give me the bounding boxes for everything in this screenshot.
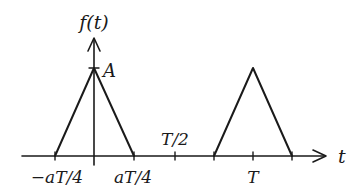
t-axis-label: t — [338, 145, 346, 167]
tick-label-T: T — [247, 167, 260, 187]
tick-label-neg-aT4: −aT/4 — [31, 167, 83, 187]
tick-label-half-T: T/2 — [161, 129, 189, 149]
tick-label-pos-aT4: aT/4 — [114, 167, 152, 187]
f-axis-label: f(t) — [77, 11, 109, 33]
peak-label: A — [101, 60, 116, 81]
pulse-at-T — [214, 68, 292, 156]
pulse-diagram: f(t) t A −aT/4 aT/4 T/2 T — [0, 0, 360, 190]
